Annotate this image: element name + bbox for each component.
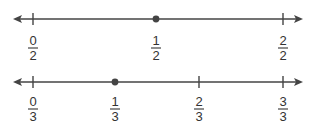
denominator: 3 xyxy=(111,109,118,124)
label-0-3: 0 3 xyxy=(28,94,38,124)
denominator: 3 xyxy=(29,109,36,124)
denominator: 3 xyxy=(279,109,286,124)
number-lines-diagram: 0 2 1 2 2 2 0 3 1 3 xyxy=(0,0,314,131)
point-1-2 xyxy=(153,16,160,23)
number-line-thirds: 0 3 1 3 2 3 3 3 xyxy=(13,76,303,124)
label-0-2: 0 2 xyxy=(28,33,38,63)
denominator: 3 xyxy=(195,109,202,124)
numerator: 1 xyxy=(111,94,118,109)
numerator: 2 xyxy=(279,33,286,48)
label-2-2: 2 2 xyxy=(278,33,288,63)
denominator: 2 xyxy=(29,48,36,63)
denominator: 2 xyxy=(279,48,286,63)
point-1-3 xyxy=(112,79,119,86)
denominator: 2 xyxy=(152,48,159,63)
numerator: 2 xyxy=(195,94,202,109)
number-line-halves: 0 2 1 2 2 2 xyxy=(13,13,303,63)
label-1-2: 1 2 xyxy=(151,33,161,63)
label-3-3: 3 3 xyxy=(278,94,288,124)
numerator: 0 xyxy=(29,94,36,109)
label-1-3: 1 3 xyxy=(110,94,120,124)
numerator: 1 xyxy=(152,33,159,48)
numerator: 3 xyxy=(279,94,286,109)
numerator: 0 xyxy=(29,33,36,48)
label-2-3: 2 3 xyxy=(194,94,204,124)
